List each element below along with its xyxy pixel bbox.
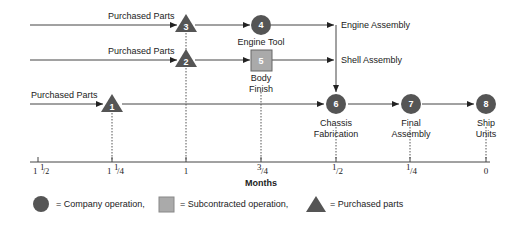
node-3-purchased[interactable]: 3 — [175, 14, 197, 32]
svg-text:Finish: Finish — [249, 84, 273, 94]
tick-0: 0 — [484, 166, 489, 176]
legend-purchased-parts: = Purchased parts — [330, 199, 404, 209]
svg-text:/4: /4 — [117, 166, 125, 176]
svg-text:Units: Units — [476, 129, 497, 139]
legend-company-operation: = Company operation, — [56, 199, 145, 209]
square-icon — [159, 197, 174, 212]
svg-text:1: 1 — [107, 166, 112, 176]
node-8-ship-units[interactable]: 8 Ship Units — [476, 94, 497, 139]
svg-text:6: 6 — [333, 99, 338, 109]
tick-1/2: 1 /2 — [332, 162, 343, 176]
tick-1/4: 1 /4 — [406, 162, 418, 176]
svg-text:7: 7 — [408, 99, 413, 109]
svg-text:2: 2 — [183, 57, 188, 67]
node-6-chassis-fabrication[interactable]: 6 Chassis Fabrication — [314, 94, 359, 139]
tick-1-1/4: 1 1 /4 — [107, 162, 125, 176]
svg-text:/2: /2 — [43, 167, 49, 176]
node-2-purchased[interactable]: 2 — [175, 49, 197, 67]
time-axis: 1 1 /2 1 1 /4 1 3 /4 1 /2 1 /4 0 Months — [30, 157, 490, 188]
shell-assembly-label: Shell Assembly — [341, 55, 403, 65]
svg-text:Assembly: Assembly — [391, 129, 431, 139]
input-label-middle: Purchased Parts — [108, 46, 175, 56]
tick-3/4: 3 /4 — [257, 162, 269, 176]
node-4-engine-tool[interactable]: 4 Engine Tool — [238, 15, 285, 47]
svg-text:3: 3 — [183, 22, 188, 32]
svg-text:/4: /4 — [410, 166, 418, 176]
triangle-icon — [306, 196, 326, 212]
svg-text:Chassis: Chassis — [320, 118, 353, 128]
svg-text:Final: Final — [401, 118, 421, 128]
axis-title: Months — [245, 178, 277, 188]
svg-text:Ship: Ship — [477, 118, 495, 128]
svg-text:Engine Tool: Engine Tool — [238, 37, 285, 47]
node-7-final-assembly[interactable]: 7 Final Assembly — [391, 94, 431, 139]
svg-text:1: 1 — [109, 102, 114, 112]
node-1-purchased[interactable]: 1 — [101, 94, 123, 112]
node-5-body-finish[interactable]: 5 Body Finish — [249, 50, 273, 94]
svg-text:/2: /2 — [336, 166, 343, 176]
svg-text:8: 8 — [483, 99, 488, 109]
legend: = Company operation, = Subcontracted ope… — [33, 196, 404, 212]
svg-text:4: 4 — [258, 20, 263, 30]
svg-text:Fabrication: Fabrication — [314, 129, 359, 139]
svg-text:1: 1 — [33, 166, 38, 176]
legend-subcontracted-operation: = Subcontracted operation, — [180, 199, 288, 209]
assembly-chart-diagram: Purchased Parts Purchased Parts Purchase… — [0, 0, 525, 228]
svg-text:Body: Body — [251, 73, 272, 83]
input-label-bottom: Purchased Parts — [31, 90, 98, 100]
input-label-top: Purchased Parts — [108, 11, 175, 21]
svg-text:/4: /4 — [261, 166, 269, 176]
tick-1-1/2: 1 1 /2 — [33, 162, 49, 176]
circle-icon — [33, 196, 49, 212]
engine-assembly-label: Engine Assembly — [341, 20, 411, 30]
svg-text:5: 5 — [258, 56, 263, 66]
tick-1: 1 — [184, 166, 189, 176]
